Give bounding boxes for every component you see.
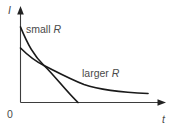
figure-canvas: I t 0 small R larger R — [0, 0, 174, 129]
y-axis-label: I — [8, 4, 11, 16]
annotation-small-r-prefix: small — [26, 23, 53, 35]
annotation-larger-r-prefix: larger — [82, 67, 112, 79]
annotation-larger-r-symbol: R — [112, 67, 120, 79]
annotation-small-r: small R — [26, 23, 61, 35]
y-axis-arrowhead — [17, 6, 24, 15]
curve-small-r — [21, 27, 79, 103]
decay-curves-figure: I t 0 small R larger R — [0, 0, 174, 129]
x-axis-label: t — [162, 113, 166, 125]
origin-label: 0 — [7, 108, 13, 120]
annotation-larger-r: larger R — [82, 67, 120, 79]
annotation-small-r-symbol: R — [53, 23, 61, 35]
x-axis-arrowhead — [158, 99, 167, 106]
